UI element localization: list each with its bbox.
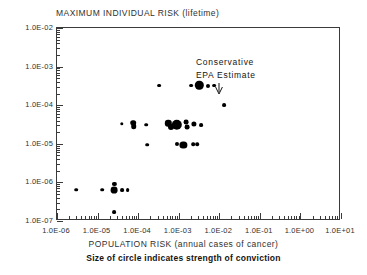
data-point bbox=[131, 123, 137, 129]
y-axis-minor-tick bbox=[57, 132, 60, 133]
data-point bbox=[120, 188, 124, 192]
y-axis-minor-tick bbox=[57, 70, 60, 71]
y-axis-minor-tick bbox=[57, 186, 60, 187]
y-axis-minor-tick bbox=[57, 111, 60, 112]
y-axis-minor-tick bbox=[57, 114, 60, 115]
data-point bbox=[222, 103, 226, 107]
y-axis-minor-tick bbox=[57, 125, 60, 126]
x-axis-minor-tick bbox=[198, 216, 199, 219]
y-axis-minor-tick bbox=[57, 55, 60, 56]
y-axis-minor-tick bbox=[57, 146, 60, 147]
y-axis-minor-tick bbox=[57, 32, 60, 33]
x-axis-minor-tick bbox=[191, 216, 192, 219]
y-axis-minor-tick bbox=[57, 73, 60, 74]
x-axis-major-tick bbox=[260, 213, 261, 219]
x-axis-tick-labels: 1.0E-061.0E-051.0E-041.0E-031.0E-021.0E-… bbox=[56, 226, 340, 238]
y-axis-minor-tick bbox=[57, 203, 60, 204]
y-axis-minor-tick bbox=[57, 94, 60, 95]
y-axis-minor-tick bbox=[57, 121, 60, 122]
y-axis-minor-tick bbox=[57, 78, 60, 79]
x-axis-minor-tick bbox=[296, 216, 297, 219]
x-axis-minor-tick bbox=[244, 216, 245, 219]
data-point bbox=[75, 188, 79, 192]
x-axis-tick-label: 1.0E+01 bbox=[325, 226, 355, 235]
data-point bbox=[189, 84, 193, 88]
data-point bbox=[100, 188, 104, 192]
data-point bbox=[192, 143, 196, 147]
x-axis-minor-tick bbox=[213, 216, 214, 219]
data-point bbox=[192, 122, 197, 127]
annotation-arrow-icon bbox=[214, 83, 224, 94]
y-axis-minor-tick bbox=[57, 68, 60, 69]
x-axis-minor-tick bbox=[339, 216, 340, 219]
x-axis-minor-tick bbox=[89, 216, 90, 219]
x-axis-tick-label: 1.0E-05 bbox=[83, 226, 111, 235]
y-axis-major-tick bbox=[57, 28, 63, 29]
x-axis-minor-tick bbox=[299, 216, 300, 219]
x-axis-minor-tick bbox=[172, 216, 173, 219]
x-axis-minor-tick bbox=[129, 216, 130, 219]
y-axis-minor-tick bbox=[57, 194, 60, 195]
data-point bbox=[112, 182, 116, 186]
y-axis-tick-label: 1.0E-03 bbox=[25, 61, 53, 70]
x-axis-minor-tick bbox=[254, 216, 255, 219]
y-axis-tick-label: 1.0E-06 bbox=[25, 177, 53, 186]
x-axis-minor-tick bbox=[210, 216, 211, 219]
x-axis-minor-tick bbox=[117, 216, 118, 219]
y-axis-minor-tick bbox=[57, 48, 60, 49]
x-axis-tick-label: 1.0E-04 bbox=[123, 226, 151, 235]
x-axis-minor-tick bbox=[81, 216, 82, 219]
x-axis-minor-tick bbox=[248, 216, 249, 219]
x-axis-minor-tick bbox=[332, 216, 333, 219]
x-axis-minor-tick bbox=[110, 216, 111, 219]
y-axis-tick-label: 1.0E-07 bbox=[25, 216, 53, 225]
y-axis-minor-tick bbox=[57, 164, 60, 165]
x-axis-minor-tick bbox=[158, 216, 159, 219]
x-axis-major-tick bbox=[300, 213, 301, 219]
y-axis-tick-label: 1.0E-05 bbox=[25, 138, 53, 147]
x-axis-title: POPULATION RISK (annual cases of cancer) bbox=[0, 239, 367, 249]
x-axis-minor-tick bbox=[94, 216, 95, 219]
x-axis-minor-tick bbox=[85, 216, 86, 219]
x-axis-tick-label: 1.0E-02 bbox=[204, 226, 232, 235]
annotation-conservative: Conservative bbox=[196, 57, 254, 67]
x-axis-minor-tick bbox=[122, 216, 123, 219]
x-axis-tick-label: 1.0E-03 bbox=[164, 226, 192, 235]
x-axis-minor-tick bbox=[76, 216, 77, 219]
chart-title: MAXIMUM INDIVIDUAL RISK (lifetime) bbox=[56, 8, 219, 18]
y-axis-minor-tick bbox=[57, 87, 60, 88]
y-axis-minor-tick bbox=[57, 152, 60, 153]
x-axis-minor-tick bbox=[132, 216, 133, 219]
data-point bbox=[146, 143, 150, 147]
y-axis-major-tick bbox=[57, 182, 63, 183]
x-axis-minor-tick bbox=[170, 216, 171, 219]
y-axis-minor-tick bbox=[57, 171, 60, 172]
x-axis-minor-tick bbox=[288, 216, 289, 219]
x-axis-minor-tick bbox=[136, 216, 137, 219]
y-axis-minor-tick bbox=[57, 40, 60, 41]
y-axis-tick-labels: 1.0E-021.0E-031.0E-041.0E-051.0E-061.0E-… bbox=[0, 27, 53, 220]
chart-figure: MAXIMUM INDIVIDUAL RISK (lifetime) 1.0E-… bbox=[0, 0, 367, 275]
y-axis-minor-tick bbox=[57, 150, 60, 151]
y-axis-major-tick bbox=[57, 144, 63, 145]
y-axis-minor-tick bbox=[57, 184, 60, 185]
y-axis-minor-tick bbox=[57, 109, 60, 110]
x-axis-minor-tick bbox=[320, 216, 321, 219]
y-axis-minor-tick bbox=[57, 159, 60, 160]
x-axis-minor-tick bbox=[69, 216, 70, 219]
x-axis-minor-tick bbox=[239, 216, 240, 219]
x-axis-minor-tick bbox=[163, 216, 164, 219]
x-axis-minor-tick bbox=[126, 216, 127, 219]
y-axis-minor-tick bbox=[57, 82, 60, 83]
x-axis-minor-tick bbox=[177, 216, 178, 219]
x-axis-minor-tick bbox=[167, 216, 168, 219]
x-axis-major-tick bbox=[138, 213, 139, 219]
x-axis-minor-tick bbox=[279, 216, 280, 219]
y-axis-minor-tick bbox=[57, 30, 60, 31]
x-axis-minor-tick bbox=[272, 216, 273, 219]
x-axis-minor-tick bbox=[134, 216, 135, 219]
plot-area bbox=[56, 27, 340, 220]
x-axis-minor-tick bbox=[217, 216, 218, 219]
y-axis-major-tick bbox=[57, 67, 63, 68]
y-axis-minor-tick bbox=[57, 155, 60, 156]
